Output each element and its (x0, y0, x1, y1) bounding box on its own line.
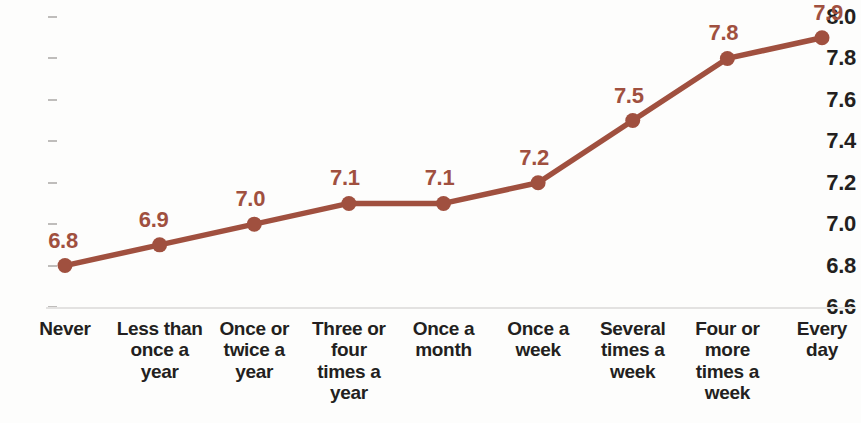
x-tick-label-line: four (296, 339, 402, 360)
data-point-marker (625, 113, 640, 128)
series-polyline (65, 38, 822, 266)
x-tick-label-line: times a (674, 361, 780, 382)
x-tick-label-line: week (580, 361, 686, 382)
x-tick-label-line: Less than (104, 318, 216, 339)
x-tick-label-line: Once or (201, 318, 307, 339)
x-tick-label-line: week (674, 382, 780, 403)
x-axis-baseline (46, 307, 856, 309)
x-tick-label: Less thanonce ayear (104, 318, 216, 382)
x-tick-label-line: times a (580, 339, 686, 360)
x-tick-label: Once aweek (490, 318, 586, 361)
data-point-marker (720, 51, 735, 66)
x-tick-label-line: Three or (296, 318, 402, 339)
x-tick-label-line: twice a (201, 339, 307, 360)
x-tick-label-line: month (394, 339, 494, 360)
plot-area: 6.86.97.07.17.17.27.57.87.9 (0, 0, 856, 315)
data-point-label: 7.1 (425, 167, 455, 189)
x-tick-label: Three orfourtimes ayear (296, 318, 402, 403)
x-tick-label-line: Several (580, 318, 686, 339)
x-axis: NeverLess thanonce ayearOnce ortwice aye… (0, 318, 856, 423)
x-tick-label-line: day (779, 339, 861, 360)
data-point-marker (531, 175, 546, 190)
data-point-marker (152, 237, 167, 252)
data-point-label: 7.5 (614, 85, 644, 107)
data-point-marker (815, 30, 830, 45)
x-tick-label: Never (15, 318, 115, 339)
x-tick-label-line: Every (779, 318, 861, 339)
x-tick-label-line: week (490, 339, 586, 360)
x-tick-label-line: Never (15, 318, 115, 339)
data-point-label: 7.9 (813, 2, 843, 24)
x-tick-label-line: Once a (394, 318, 494, 339)
x-tick-label: Severaltimes aweek (580, 318, 686, 382)
data-point-label: 7.8 (709, 22, 739, 44)
x-tick-label-line: times a (296, 361, 402, 382)
x-tick-label: Everyday (779, 318, 861, 361)
x-tick-label: Once ortwice ayear (201, 318, 307, 382)
x-tick-label-line: year (201, 361, 307, 382)
x-tick-label: Once amonth (394, 318, 494, 361)
data-point-label: 6.8 (48, 230, 78, 252)
x-tick-label-line: once a (104, 339, 216, 360)
data-point-marker (341, 196, 356, 211)
x-tick-label-line: year (296, 382, 402, 403)
data-point-marker (247, 217, 262, 232)
data-point-label: 7.2 (519, 147, 549, 169)
data-point-label: 7.0 (235, 188, 265, 210)
data-point-label: 7.1 (330, 167, 360, 189)
x-tick-label-line: Once a (490, 318, 586, 339)
x-tick-label-line: more (674, 339, 780, 360)
data-point-marker (436, 196, 451, 211)
data-point-label: 6.9 (139, 209, 169, 231)
x-tick-label: Four ormoretimes aweek (674, 318, 780, 403)
data-point-marker (58, 258, 73, 273)
x-tick-label-line: year (104, 361, 216, 382)
x-tick-label-line: Four or (674, 318, 780, 339)
series-line (0, 0, 856, 315)
